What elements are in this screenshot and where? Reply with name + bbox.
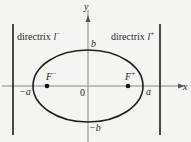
x-axis-label: x: [182, 81, 188, 92]
focus-minus-point: [45, 84, 50, 89]
ellipse-diagram: x y directrix l− directrix l+ F− F+ −a a…: [0, 0, 191, 142]
origin-label: 0: [80, 87, 85, 98]
directrix-right-label: directrix l+: [111, 30, 154, 42]
directrix-left-label: directrix l−: [17, 30, 60, 42]
focus-minus-label: F−: [45, 70, 57, 82]
vertex-right-label: a: [146, 86, 151, 97]
focus-plus-label: F+: [124, 70, 136, 82]
vertex-bottom-label: −b: [89, 122, 101, 133]
y-axis-arrow-icon: [86, 15, 91, 22]
y-axis: y: [83, 1, 91, 142]
vertex-top-label: b: [91, 38, 96, 49]
focus-plus-point: [126, 84, 131, 89]
y-axis-label: y: [83, 1, 89, 12]
vertex-left-label: −a: [19, 86, 31, 97]
